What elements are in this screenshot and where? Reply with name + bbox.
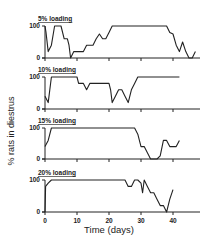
series-line [45, 128, 179, 159]
x-tick-label: 10 [73, 217, 81, 224]
panel-title: 5% loading [38, 15, 72, 23]
series-line [45, 26, 195, 58]
series-line [45, 77, 179, 103]
panel-title: 10% loading [38, 66, 76, 74]
y-tick-label: 0 [36, 208, 40, 215]
panel-title: 15% loading [38, 117, 76, 125]
y-tick-label: 100 [29, 73, 40, 80]
y-axis-label: % rats in diestrus [6, 96, 16, 166]
panel-2: 10% loading1000 [29, 66, 200, 112]
x-tick-label: 40 [169, 217, 177, 224]
panel-1: 5% loading1000 [29, 15, 200, 61]
x-tick-label: 20 [105, 217, 113, 224]
figure: 5% loading100010% loading100015% loading… [0, 0, 215, 249]
panel-title: 20% loading [38, 169, 76, 177]
y-tick-label: 100 [29, 124, 40, 131]
panel-3: 15% loading1000 [29, 117, 200, 162]
y-tick-label: 100 [29, 22, 40, 29]
y-tick-label: 0 [36, 54, 40, 61]
x-tick-label: 30 [137, 217, 145, 224]
y-tick-label: 100 [29, 176, 40, 183]
y-tick-label: 0 [36, 105, 40, 112]
series-line [45, 180, 173, 212]
y-tick-label: 0 [36, 155, 40, 162]
panel-4: 20% loading1000010203040 [29, 169, 200, 224]
x-axis-label: Time (days) [84, 224, 134, 235]
x-tick-label: 0 [43, 217, 47, 224]
